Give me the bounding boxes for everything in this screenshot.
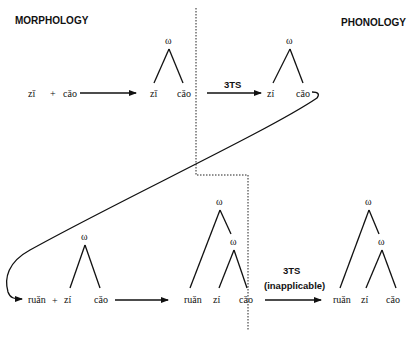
tree-row1-phon: ω zí cǎo (267, 35, 310, 99)
leaf-zi-rising: zí (64, 294, 71, 305)
leaf-zi-rising: zí (267, 88, 274, 99)
leaf-zi-rising: zí (361, 294, 368, 305)
omega-root: ω (216, 196, 223, 207)
leaf-cao: cǎo (239, 294, 253, 305)
omega-node: ω (81, 231, 88, 242)
feedback-curve-arrow (7, 92, 319, 299)
morphology-header: MORPHOLOGY (15, 15, 89, 26)
syllable-ruan: ruǎn (28, 294, 46, 305)
rule-inapplicable-note: (inapplicable) (264, 280, 325, 291)
leaf-cao: cǎo (177, 88, 191, 99)
syllable-cao: cǎo (63, 88, 77, 99)
phonology-header: PHONOLOGY (341, 17, 406, 28)
plus-sign: + (52, 295, 58, 306)
rule-3ts-row2: 3TS (283, 265, 300, 276)
leaf-zi: zǐ (150, 88, 157, 99)
omega-root: ω (365, 196, 372, 207)
omega-node: ω (165, 35, 172, 46)
omega-node: ω (286, 35, 293, 46)
tree-row1-morph: ω zǐ cǎo (150, 35, 191, 99)
tree-row2-morph: ω ω ruǎn zí cǎo (184, 196, 253, 305)
leaf-ruan: ruǎn (184, 294, 202, 305)
plus-sign: + (50, 88, 56, 99)
leaf-cao: cǎo (386, 294, 400, 305)
rule-3ts-row1: 3TS (224, 79, 241, 90)
leaf-zi-rising: zí (213, 294, 220, 305)
tree-row2-phon: ω ω ruǎn zí cǎo (333, 196, 400, 305)
syllable-zi: zǐ (28, 88, 35, 99)
leaf-cao: cǎo (94, 294, 108, 305)
row2-input: ruǎn + ω zí cǎo (28, 231, 108, 306)
leaf-cao: cǎo (296, 88, 310, 99)
leaf-ruan: ruǎn (333, 294, 351, 305)
omega-inner: ω (378, 236, 385, 247)
diagram-canvas: MORPHOLOGY PHONOLOGY zǐ + cǎo ω zǐ cǎo 3… (0, 0, 409, 339)
omega-inner: ω (230, 236, 237, 247)
row1-input: zǐ + cǎo (28, 88, 77, 99)
